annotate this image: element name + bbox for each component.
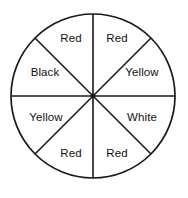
spinner-wheel-figure: Red Red Black Yellow Yellow White Red Re… bbox=[0, 0, 188, 198]
sector-label-left-upper: Black bbox=[31, 67, 60, 79]
sector-label-bottom-right: Red bbox=[106, 148, 127, 160]
sector-label-top-left: Red bbox=[60, 33, 81, 45]
sector-label-top-right: Red bbox=[106, 33, 127, 45]
wheel-center-pivot bbox=[91, 94, 96, 99]
sector-label-right-upper: Yellow bbox=[125, 67, 158, 79]
spinner-wheel-graphic bbox=[0, 0, 188, 198]
sector-label-right-lower: White bbox=[127, 112, 157, 124]
sector-label-bottom-left: Red bbox=[60, 148, 81, 160]
sector-label-left-lower: Yellow bbox=[29, 112, 62, 124]
